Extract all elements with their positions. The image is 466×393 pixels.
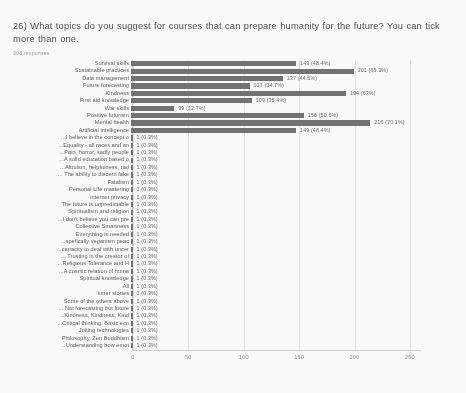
bar-plot-area: 1 (0.3%) (131, 305, 466, 312)
chart-bar-row: Spiritual knowledge1 (0.3%) (0, 275, 466, 282)
bar (131, 158, 133, 163)
chart-rows: Survival skills149 (48.4%)Sustainable pr… (0, 60, 466, 349)
chart-bar-row: I don't believe you can pre...1 (0.3%) (0, 216, 466, 223)
chart-bar-row: A cosmic relation of huma...1 (0.3%) (0, 268, 466, 275)
bar-plot-area: 156 (50.6%) (131, 112, 466, 119)
bar-value-label: 137 (44.5%) (287, 75, 317, 82)
bar-category-label: Data management (0, 75, 131, 82)
chart-bar-row: Survival skills149 (48.4%) (0, 60, 466, 67)
bar-plot-area: 1 (0.3%) (131, 283, 466, 290)
bar-plot-area: 149 (48.4%) (131, 60, 466, 67)
bar-value-label: 1 (0.3%) (137, 327, 158, 334)
chart-bar-row: Religious Tolerance and H...1 (0.3%) (0, 260, 466, 267)
bar-value-label: 1 (0.3%) (137, 208, 158, 215)
bar-category-label: Mental health (0, 119, 131, 126)
bar (131, 143, 133, 148)
bar-plot-area: 1 (0.3%) (131, 156, 466, 163)
bar-plot-area: 1 (0.3%) (131, 186, 466, 193)
bar-plot-area: 1 (0.3%) (131, 201, 466, 208)
x-tick-label: 50 (185, 354, 192, 360)
chart-bar-row: Future forecasting107 (34.7%) (0, 82, 466, 89)
bar-value-label: 1 (0.3%) (137, 164, 158, 171)
bar-plot-area: 39 (12.7%) (131, 105, 466, 112)
chart-bar-row: Data management137 (44.5%) (0, 75, 466, 82)
bar-value-label: 1 (0.3%) (137, 201, 158, 208)
bar (131, 261, 133, 266)
bar (131, 187, 133, 192)
bar (131, 61, 296, 66)
bar-plot-area: 1 (0.3%) (131, 268, 466, 275)
bar-plot-area: 1 (0.3%) (131, 246, 466, 253)
bar-category-label: War skills (0, 105, 131, 112)
bar-category-label: Artificial intelligence (0, 127, 131, 134)
bar-category-label: Some of the others above (0, 298, 131, 305)
bar-plot-area: 1 (0.3%) (131, 327, 466, 334)
bar (131, 120, 370, 125)
bar (131, 113, 304, 118)
chart-bar-row: Spiritualism and religion1 (0.3%) (0, 208, 466, 215)
bar-value-label: 1 (0.3%) (137, 305, 158, 312)
bar-category-label: Future forecasting (0, 82, 131, 89)
chart-bar-row: Mental health216 (70.1%) (0, 119, 466, 126)
bar-value-label: 1 (0.3%) (137, 335, 158, 342)
chart-bar-row: Sustainable practices201 (65.3%) (0, 67, 466, 74)
bar-plot-area: 1 (0.3%) (131, 179, 466, 186)
chart-bar-row: Everything is needed1 (0.3%) (0, 231, 466, 238)
bar-value-label: 109 (35.4%) (256, 97, 286, 104)
bar-value-label: 201 (65.3%) (358, 67, 388, 74)
chart-bar-row: Altruism, helpfulness, rad...1 (0.3%) (0, 164, 466, 171)
bar (131, 135, 133, 140)
bar-plot-area: 1 (0.3%) (131, 142, 466, 149)
bar-plot-area: 1 (0.3%) (131, 149, 466, 156)
survey-chart-page: 26) What topics do you suggest for cours… (0, 0, 466, 393)
bar-category-label: A solid education based o... (0, 156, 131, 163)
bar-category-label: I believe in the concept o... (0, 134, 131, 141)
bar-plot-area: 1 (0.3%) (131, 260, 466, 267)
chart-bar-row: First aid knowledge109 (35.4%) (0, 97, 466, 104)
bar-category-label: capacity to deal with uncer... (0, 246, 131, 253)
bar-category-label: spefically veganism peac... (0, 238, 131, 245)
bar (131, 83, 250, 88)
bar (131, 269, 133, 274)
bar-plot-area: 1 (0.3%) (131, 194, 466, 201)
bar-value-label: 1 (0.3%) (137, 194, 158, 201)
bar-plot-area: 1 (0.3%) (131, 231, 466, 238)
x-tick-label: 150 (294, 354, 304, 360)
bar-plot-area: 1 (0.3%) (131, 171, 466, 178)
bar (131, 306, 133, 311)
chart-bar-row: Equality - all races and an...1 (0.3%) (0, 142, 466, 149)
bar (131, 150, 133, 155)
bar-value-label: 149 (48.4%) (300, 60, 330, 67)
bar (131, 128, 296, 133)
bar (131, 232, 133, 237)
bar-category-label: Sustainable practices (0, 67, 131, 74)
bar-value-label: 1 (0.3%) (137, 283, 158, 290)
bar-value-label: 1 (0.3%) (137, 260, 158, 267)
bar-plot-area: 1 (0.3%) (131, 238, 466, 245)
bar-category-label: Jolting technologies (0, 327, 131, 334)
bar-category-label: Altruism, helpfulness, rad... (0, 164, 131, 171)
bar-value-label: 1 (0.3%) (137, 171, 158, 178)
bar (131, 180, 133, 185)
bar (131, 195, 133, 200)
bar-value-label: 1 (0.3%) (137, 238, 158, 245)
bar (131, 217, 133, 222)
bar-value-label: 1 (0.3%) (137, 312, 158, 319)
chart-bar-row: Collective Smartness1 (0.3%) (0, 223, 466, 230)
bar-plot-area: 1 (0.3%) (131, 290, 466, 297)
bar (131, 165, 133, 170)
bar-plot-area: 149 (48.4%) (131, 127, 466, 134)
bar (131, 239, 133, 244)
chart-bar-row: Philosophy, Zen Buddhism1 (0.3%) (0, 335, 466, 342)
bar-category-label: Religious Tolerance and H... (0, 260, 131, 267)
bar-category-label: Fatalism (0, 179, 131, 186)
bar (131, 299, 133, 304)
bar-category-label: inner stories (0, 290, 131, 297)
bar-category-label: Personal Life mastering (0, 186, 131, 193)
bar-category-label: Philosophy, Zen Buddhism (0, 335, 131, 342)
bar-value-label: 194 (63%) (350, 90, 376, 97)
bar (131, 336, 133, 341)
chart-bar-row: Trusting in the creator of ...1 (0.3%) (0, 253, 466, 260)
bar (131, 291, 133, 296)
bar-value-label: 1 (0.3%) (137, 231, 158, 238)
